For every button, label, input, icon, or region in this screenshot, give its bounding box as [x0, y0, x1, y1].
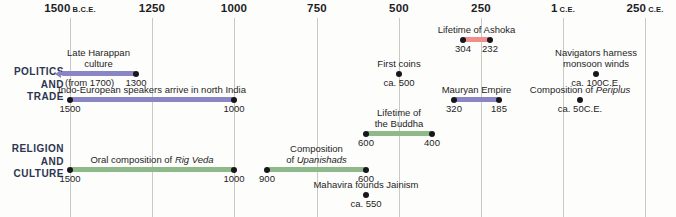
event-start-date: 1500	[59, 103, 80, 114]
event-bar	[61, 71, 136, 76]
open-start-arrow-icon	[55, 70, 61, 78]
event-bar	[366, 131, 432, 136]
category-label-line: CULTURE	[0, 168, 64, 181]
axis-tick-250: 250	[471, 2, 491, 14]
event-start-dot	[363, 131, 369, 137]
event-title: Oral composition of Rig Veda	[90, 155, 213, 166]
event-end-date: 400	[424, 137, 440, 148]
event-title: Mahavira founds Jainism	[313, 180, 418, 191]
tick-era: C.E.	[648, 5, 663, 14]
event-start-date: 600	[358, 137, 374, 148]
event-title: First coins	[377, 59, 420, 70]
event-end-dot	[429, 131, 435, 137]
event-end-date: 232	[482, 43, 498, 54]
event-title: Indo-European speakers arrive in north I…	[58, 85, 246, 96]
event-title: Compositionof Upanishads	[286, 144, 347, 165]
event-bar	[454, 97, 499, 102]
event-date: ca. 500	[383, 77, 414, 88]
event-mauryan-empire[interactable]: Mauryan Empire320185	[454, 97, 499, 102]
event-date-era: C.E.	[584, 103, 602, 114]
event-point-dot	[593, 71, 599, 77]
axis-tick-250: 250C.E.	[626, 2, 663, 14]
event-end-dot	[133, 71, 139, 77]
category-label-line: RELIGION	[0, 143, 64, 156]
event-end-date: 1000	[223, 173, 244, 184]
category-label-line: AND	[0, 156, 64, 169]
event-indo-european-speakers[interactable]: Indo-European speakers arrive in north I…	[70, 97, 234, 102]
axis-tick-500: 500	[389, 2, 409, 14]
event-start-date: 320	[446, 103, 462, 114]
event-point-dot	[577, 97, 583, 103]
event-start-date: 900	[259, 173, 275, 184]
event-title: Lifetime ofthe Buddha	[375, 108, 424, 129]
event-date: ca. 550	[350, 198, 381, 209]
gridline-1000	[234, 18, 235, 217]
gridline-1250	[152, 18, 153, 217]
event-title: Lifetime of Ashoka	[438, 25, 516, 36]
tick-year: 1	[551, 2, 558, 14]
event-start-date: 1500	[59, 173, 80, 184]
event-end-dot	[363, 167, 369, 173]
tick-era: B.C.E.	[73, 5, 96, 14]
event-title: Navigators harnessmonsoon winds	[555, 48, 637, 69]
event-end-date: 1000	[223, 103, 244, 114]
event-bar	[70, 97, 234, 102]
tick-year: 1000	[221, 2, 247, 14]
event-bar	[267, 167, 366, 172]
tick-year: 500	[389, 2, 409, 14]
axis-tick-1000: 1000	[221, 2, 247, 14]
event-end-date: 185	[491, 103, 507, 114]
category-label-religion: RELIGIONANDCULTURE	[0, 143, 64, 181]
category-label-line: AND	[0, 79, 64, 92]
event-lifetime-of-the-buddha[interactable]: Lifetime ofthe Buddha600400	[366, 131, 432, 136]
tick-year: 1250	[139, 2, 165, 14]
tick-year: 1500	[44, 2, 70, 14]
axis-tick-1250: 1250	[139, 2, 165, 14]
event-lifetime-of-ashoka[interactable]: Lifetime of Ashoka304232	[463, 37, 490, 42]
event-end-dot	[231, 167, 237, 173]
event-start-dot	[67, 167, 73, 173]
category-label-line: TRADE	[0, 91, 64, 104]
tick-year: 750	[307, 2, 327, 14]
event-start-dot	[67, 97, 73, 103]
tick-year: 250	[471, 2, 491, 14]
gridline-250	[645, 18, 646, 217]
tick-year: 250	[626, 2, 646, 14]
event-point-dot	[363, 192, 369, 198]
axis-tick-1: 1C.E.	[551, 2, 575, 14]
event-end-dot	[487, 37, 493, 43]
event-start-dot	[460, 37, 466, 43]
event-oral-composition-of-rig-veda[interactable]: Oral composition of Rig Veda15001000	[70, 167, 234, 172]
event-title: Mauryan Empire	[442, 85, 512, 96]
event-start-date: 304	[455, 43, 471, 54]
event-end-dot	[496, 97, 502, 103]
axis-tick-1500: 1500B.C.E.	[44, 2, 96, 14]
event-composition-of-upanishads[interactable]: Compositionof Upanishads900600	[267, 167, 366, 172]
axis-tick-750: 750	[307, 2, 327, 14]
timeline-chart: 1500B.C.E.125010007505002501C.E.250C.E. …	[0, 0, 676, 217]
event-end-dot	[231, 97, 237, 103]
tick-era: C.E.	[560, 5, 575, 14]
event-point-dot	[396, 71, 402, 77]
event-title: Late Harappanculture	[67, 48, 130, 69]
event-late-harappan-culture[interactable]: Late Harappanculture(from 1700)1300	[61, 71, 136, 76]
event-start-dot	[264, 167, 270, 173]
event-date: ca. 50C.E.	[558, 103, 602, 114]
event-title: Composition of Periplus	[530, 85, 630, 96]
event-start-dot	[451, 97, 457, 103]
event-bar	[463, 37, 490, 42]
event-bar	[70, 167, 234, 172]
